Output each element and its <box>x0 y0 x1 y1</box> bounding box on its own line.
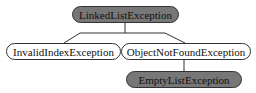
node-invalid-index-exception: InvalidIndexException <box>6 43 121 60</box>
node-empty-list-exception: EmptyListException <box>126 71 242 88</box>
node-object-not-found-exception: ObjectNotFoundException <box>121 43 251 60</box>
node-linked-list-exception: LinkedListException <box>72 6 179 23</box>
